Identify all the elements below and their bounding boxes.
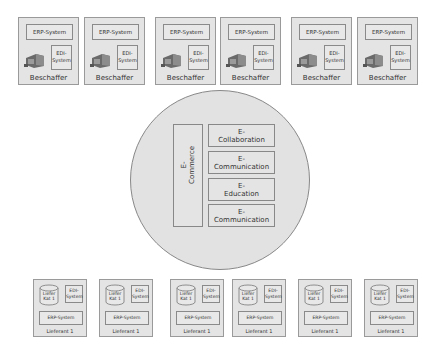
supplier-label: Lieferant 1 — [100, 328, 152, 334]
edi-system-box: EDI-System — [396, 285, 414, 303]
module-e-communication: E-Communication — [208, 151, 275, 174]
catalog-database-icon: LieferKat 1 — [303, 284, 325, 306]
buyer-box: ERP-System EDI-System Beschaffer — [18, 17, 79, 85]
edi-system-box: EDI-System — [390, 45, 411, 70]
buyer-label: Beschaffer — [156, 74, 215, 82]
supplier-label: Lieferant 1 — [365, 328, 417, 334]
supplier-label: Lieferant 1 — [34, 328, 86, 334]
supplier-label: Lieferant 1 — [233, 328, 285, 334]
edi-system-box: EDI-System — [131, 285, 149, 303]
buyer-box: ERP-System EDI-System Beschaffer — [155, 17, 216, 85]
building-icon — [24, 52, 46, 68]
edi-system-box: EDI-System — [51, 45, 72, 70]
ecommerce-label: E-Commerce — [180, 146, 196, 184]
catalog-label: LieferKat 1 — [237, 291, 259, 301]
erp-system-box: ERP-System — [238, 311, 282, 325]
module-e-communication-2: E-Communication — [208, 204, 275, 227]
buyer-box: ERP-System EDI-System Beschaffer — [291, 17, 352, 85]
catalog-label: LieferKat 1 — [369, 291, 391, 301]
catalog-database-icon: LieferKat 1 — [104, 284, 126, 306]
buyer-box: ERP-System EDI-System Beschaffer — [220, 17, 281, 85]
ecommerce-block: E-Commerce — [173, 124, 203, 227]
buyer-label: Beschaffer — [221, 74, 280, 82]
supplier-box: LieferKat 1 EDI-System ERP-System Liefer… — [33, 279, 87, 337]
catalog-database-icon: LieferKat 1 — [175, 284, 197, 306]
catalog-database-icon: LieferKat 1 — [38, 284, 60, 306]
building-icon — [363, 52, 385, 68]
erp-system-box: ERP-System — [92, 24, 139, 40]
erp-system-box: ERP-System — [176, 311, 220, 325]
module-e-collaboration: E-Collaboration — [208, 124, 275, 147]
edi-system-box: EDI-System — [264, 285, 282, 303]
erp-system-box: ERP-System — [228, 24, 275, 40]
catalog-label: LieferKat 1 — [38, 291, 60, 301]
building-icon — [297, 52, 319, 68]
erp-system-box: ERP-System — [370, 311, 414, 325]
catalog-label: LieferKat 1 — [303, 291, 325, 301]
building-icon — [161, 52, 183, 68]
buyer-label: Beschaffer — [292, 74, 351, 82]
catalog-database-icon: LieferKat 1 — [369, 284, 391, 306]
supplier-label: Lieferant 1 — [171, 328, 223, 334]
catalog-database-icon: LieferKat 1 — [237, 284, 259, 306]
erp-system-box: ERP-System — [39, 311, 83, 325]
edi-system-box: EDI-System — [253, 45, 274, 70]
edi-system-box: EDI-System — [202, 285, 220, 303]
edi-system-box: EDI-System — [188, 45, 209, 70]
erp-system-box: ERP-System — [26, 24, 73, 40]
supplier-box: LieferKat 1 EDI-System ERP-System Liefer… — [170, 279, 224, 337]
catalog-label: LieferKat 1 — [175, 291, 197, 301]
erp-system-box: ERP-System — [304, 311, 348, 325]
building-icon — [226, 52, 248, 68]
buyer-box: ERP-System EDI-System Beschaffer — [357, 17, 418, 85]
supplier-box: LieferKat 1 EDI-System ERP-System Liefer… — [99, 279, 153, 337]
buyer-label: Beschaffer — [85, 74, 144, 82]
supplier-box: LieferKat 1 EDI-System ERP-System Liefer… — [298, 279, 352, 337]
erp-system-box: ERP-System — [365, 24, 412, 40]
erp-system-box: ERP-System — [163, 24, 210, 40]
module-e-education: E-Education — [208, 178, 275, 201]
edi-system-box: EDI-System — [324, 45, 345, 70]
building-icon — [90, 52, 112, 68]
buyer-box: ERP-System EDI-System Beschaffer — [84, 17, 145, 85]
supplier-box: LieferKat 1 EDI-System ERP-System Liefer… — [364, 279, 418, 337]
supplier-label: Lieferant 1 — [299, 328, 351, 334]
erp-system-box: ERP-System — [299, 24, 346, 40]
supplier-box: LieferKat 1 EDI-System ERP-System Liefer… — [232, 279, 286, 337]
edi-system-box: EDI-System — [65, 285, 83, 303]
edi-system-box: EDI-System — [117, 45, 138, 70]
erp-system-box: ERP-System — [105, 311, 149, 325]
edi-system-box: EDI-System — [330, 285, 348, 303]
buyer-label: Beschaffer — [19, 74, 78, 82]
buyer-label: Beschaffer — [358, 74, 417, 82]
catalog-label: LieferKat 1 — [104, 291, 126, 301]
